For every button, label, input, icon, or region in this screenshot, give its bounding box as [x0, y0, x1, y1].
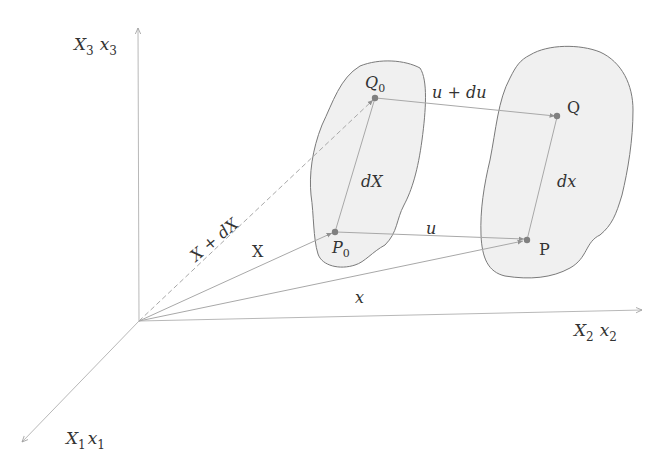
- x1-axis-label: X1x1: [64, 428, 105, 452]
- label-dx: dx: [557, 172, 576, 191]
- label-u: u: [426, 219, 436, 238]
- point-P0: [332, 229, 338, 235]
- label-u-plus-du: u + du: [432, 83, 486, 102]
- vector-X: [139, 233, 332, 321]
- x3-axis-label: X3x3: [72, 34, 117, 58]
- point-P: [524, 237, 530, 243]
- x2-axis-label: X2x2: [572, 320, 617, 344]
- label-dX: dX: [361, 172, 383, 191]
- label-X: X: [252, 242, 264, 261]
- label-X-plus-dX: X + dX: [185, 214, 243, 267]
- current-body: [481, 46, 633, 278]
- deformation-diagram: X3x3 X2x2 X1x1 Q0 P0 Q P u + du u dX dx …: [0, 0, 672, 461]
- point-Q0: [372, 95, 378, 101]
- x3-axis: [138, 28, 139, 321]
- point-Q: [554, 113, 560, 119]
- label-Q: Q: [567, 98, 580, 117]
- x1-axis: [22, 321, 139, 442]
- label-P: P: [539, 240, 550, 259]
- x2-axis: [139, 310, 642, 321]
- label-x: x: [355, 288, 364, 307]
